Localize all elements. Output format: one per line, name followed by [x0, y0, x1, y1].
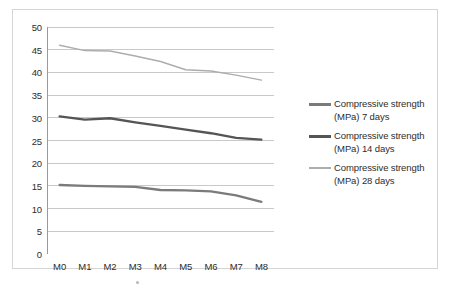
y-axis-tick-label: 10: [32, 203, 42, 214]
chart-svg: [47, 27, 274, 254]
y-axis-tick-label: 50: [32, 22, 42, 33]
legend-entry: Compressive strength(MPa) 28 days: [309, 162, 441, 187]
chart-frame: 05101520253035404550 M0M1M2M3M4M5M6M7M8 …: [12, 9, 438, 269]
series-line-0: [60, 185, 262, 202]
x-axis-tick-label: M4: [154, 261, 167, 272]
legend-line-swatch-icon: [309, 103, 331, 106]
x-axis-tick-label: M5: [179, 261, 192, 272]
x-axis-tick-label: M3: [129, 261, 142, 272]
y-axis-tick-label: 20: [32, 158, 42, 169]
legend-line-swatch-icon: [309, 135, 331, 138]
y-axis-tick-label: 45: [32, 44, 42, 55]
series-line-1: [60, 116, 262, 139]
data-series-group: [60, 45, 262, 202]
x-axis-tick-label: M6: [204, 261, 217, 272]
y-axis-tick-label: 35: [32, 90, 42, 101]
x-axis-tick-label: M7: [230, 261, 243, 272]
y-axis-tick-label: 40: [32, 67, 42, 78]
y-axis-tick-label: 15: [32, 180, 42, 191]
series-line-2: [60, 45, 262, 80]
legend-entry: Compressive strength(MPa) 14 days: [309, 130, 441, 155]
legend-line-swatch-icon: [309, 167, 331, 169]
legend-label: Compressive strength(MPa) 7 days: [334, 98, 424, 123]
legend-label: Compressive strength(MPa) 14 days: [334, 130, 424, 155]
y-axis-tick-label: 5: [37, 226, 42, 237]
chart-legend: Compressive strength(MPa) 7 daysCompress…: [309, 98, 441, 194]
x-axis-tick-label: M1: [78, 261, 91, 272]
y-axis-tick-label: 30: [32, 112, 42, 123]
page-artifact-speck: [136, 281, 139, 284]
x-axis-tick-label: M0: [53, 261, 66, 272]
chart-plot-area: 05101520253035404550 M0M1M2M3M4M5M6M7M8: [47, 27, 274, 254]
y-axis-tick-label: 0: [37, 249, 42, 260]
legend-entry: Compressive strength(MPa) 7 days: [309, 98, 441, 123]
x-axis-tick-label: M8: [255, 261, 268, 272]
legend-label: Compressive strength(MPa) 28 days: [334, 162, 424, 187]
x-axis-tick-label: M2: [104, 261, 117, 272]
y-axis-tick-label: 25: [32, 135, 42, 146]
